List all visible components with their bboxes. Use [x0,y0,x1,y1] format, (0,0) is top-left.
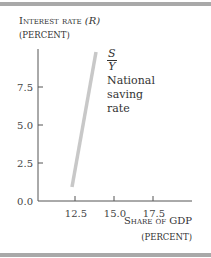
x-axis-unit: (PERCENT) [124,231,192,243]
curve-label: S Y National saving rate [107,48,155,116]
y-tick-label: 2.5 [17,158,33,169]
x-tick-label: 15.0 [104,208,126,219]
y-tick-label: 7.5 [17,82,33,93]
curve-label-line2: saving [107,88,155,102]
y-tick-label: 0.0 [17,196,33,207]
fraction-denominator: Y [107,61,117,73]
curve-label-line3: rate [107,102,155,116]
y-tick-label: 5.0 [17,120,33,131]
saving-rate-fraction: S Y [107,48,117,73]
bottom-frame-bar [0,253,211,257]
x-tick-label: 12.5 [65,208,87,219]
national-saving-rate-line [72,52,96,187]
x-axis-title-text: Share of GDP [124,215,192,226]
curve-label-line1: National [107,74,155,88]
x-axis-title: Share of GDP (PERCENT) [124,215,192,243]
